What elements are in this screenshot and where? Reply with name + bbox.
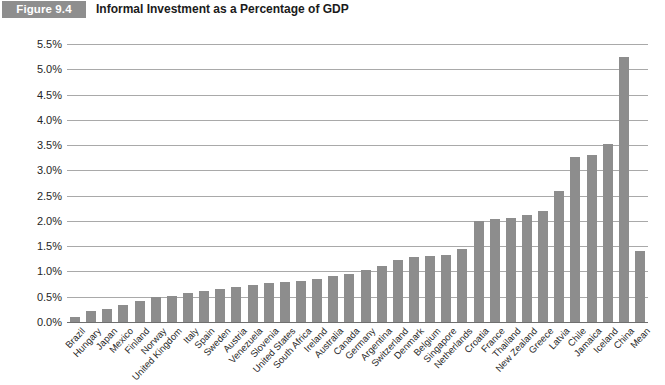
bar — [619, 57, 629, 322]
bar — [167, 296, 177, 322]
y-axis-tick-label: 2.5% — [37, 190, 62, 202]
bar — [312, 279, 322, 322]
y-axis-tick-label: 2.0% — [37, 215, 62, 227]
bar — [457, 249, 467, 322]
bar — [635, 251, 645, 322]
bar — [199, 291, 209, 322]
bar — [151, 297, 161, 322]
bar — [474, 221, 484, 322]
bar — [603, 144, 613, 322]
figure-header: Figure 9.4 Informal Investment as a Perc… — [0, 0, 665, 22]
y-axis: 0.0%0.5%1.0%1.5%2.0%2.5%3.0%3.5%4.0%4.5%… — [0, 44, 62, 322]
bar — [570, 157, 580, 322]
bar — [70, 317, 80, 322]
y-axis-tick-label: 4.5% — [37, 89, 62, 101]
bar — [135, 301, 145, 322]
bar — [490, 219, 500, 322]
y-axis-tick-label: 3.0% — [37, 164, 62, 176]
y-axis-tick-label: 5.0% — [37, 63, 62, 75]
bar — [538, 211, 548, 322]
y-axis-tick-label: 0.0% — [37, 316, 62, 328]
y-axis-tick-label: 4.0% — [37, 114, 62, 126]
bar — [425, 256, 435, 322]
bar — [86, 311, 96, 322]
bar-chart: 0.0%0.5%1.0%1.5%2.0%2.5%3.0%3.5%4.0%4.5%… — [0, 24, 665, 385]
y-axis-tick-label: 5.5% — [37, 38, 62, 50]
x-axis: BrazilHungaryJapanMexicoFinlandNorwayUni… — [67, 324, 663, 385]
bar — [102, 309, 112, 322]
bar — [522, 215, 532, 322]
bar — [118, 305, 128, 322]
bar — [328, 276, 338, 323]
bar — [280, 282, 290, 322]
page-title: Informal Investment as a Percentage of G… — [96, 1, 349, 18]
y-axis-tick-label: 1.5% — [37, 240, 62, 252]
bar — [361, 270, 371, 322]
plot-area — [67, 44, 648, 322]
bar — [183, 293, 193, 322]
bar — [409, 257, 419, 322]
y-axis-tick-label: 0.5% — [37, 291, 62, 303]
bar — [554, 191, 564, 322]
bar — [231, 287, 241, 322]
figure-number-badge: Figure 9.4 — [2, 1, 86, 18]
bar — [344, 274, 354, 322]
axis-baseline — [67, 322, 648, 323]
bar-series — [67, 44, 648, 322]
bar — [441, 255, 451, 322]
bar — [587, 155, 597, 322]
y-axis-tick-label: 3.5% — [37, 139, 62, 151]
bar — [264, 283, 274, 322]
bar — [377, 266, 387, 322]
bar — [506, 218, 516, 322]
bar — [393, 260, 403, 322]
y-axis-tick-label: 1.0% — [37, 265, 62, 277]
bar — [248, 285, 258, 322]
bar — [215, 289, 225, 322]
bar — [296, 281, 306, 322]
